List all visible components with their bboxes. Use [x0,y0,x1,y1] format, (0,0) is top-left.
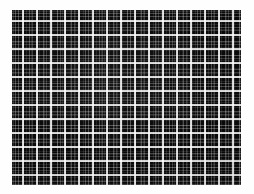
image-canvas [0,0,254,194]
plaid-texture [12,10,241,185]
weft-primary-stripes [12,10,241,185]
